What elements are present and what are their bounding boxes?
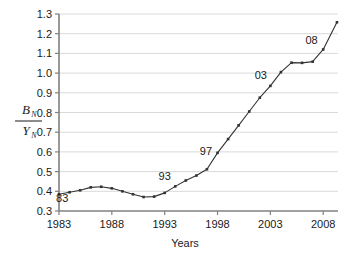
data-point-marker xyxy=(185,179,188,182)
y-axis-title-denominator-subscript: N xyxy=(30,131,37,140)
x-tick-label: 1993 xyxy=(152,218,176,230)
data-point-marker xyxy=(142,196,145,199)
x-tick-label: 2008 xyxy=(311,218,335,230)
x-axis xyxy=(59,211,338,215)
data-annotation-08: 08 xyxy=(305,34,317,46)
y-tick-label: 0.3 xyxy=(37,205,52,217)
data-point-marker xyxy=(269,85,272,88)
data-point-marker xyxy=(311,60,314,63)
data-point-marker xyxy=(153,195,156,198)
data-point-marker xyxy=(68,191,71,194)
x-tick-label: 1983 xyxy=(47,218,71,230)
x-tick-label: 2003 xyxy=(258,218,282,230)
y-tick-label: 0.5 xyxy=(37,166,52,178)
data-point-marker xyxy=(174,185,177,188)
data-point-marker xyxy=(258,96,261,99)
line-chart: 0.30.40.50.60.70.80.91.01.11.21.3 198319… xyxy=(0,0,343,255)
data-series-line xyxy=(59,22,337,197)
x-axis-title: Years xyxy=(171,237,199,249)
series-polyline xyxy=(59,22,337,197)
data-point-marker xyxy=(216,152,219,155)
data-point-marker xyxy=(227,138,230,141)
data-annotation-93: 93 xyxy=(159,170,171,182)
data-point-marker xyxy=(301,62,304,65)
data-point-marker xyxy=(248,110,251,113)
y-tick-label: 1.0 xyxy=(37,67,52,79)
data-annotation-03: 03 xyxy=(255,69,267,81)
y-axis-title-denominator: Y xyxy=(22,123,31,138)
data-point-marker xyxy=(132,193,135,196)
y-tick-label: 1.3 xyxy=(37,8,52,20)
x-tick-label: 1988 xyxy=(100,218,124,230)
y-tick-label: 0.6 xyxy=(37,146,52,158)
y-tick-label: 0.9 xyxy=(37,87,52,99)
data-point-marker xyxy=(111,187,114,190)
y-tick-label: 1.1 xyxy=(37,47,52,59)
data-annotations: 8393970308 xyxy=(56,34,318,205)
data-annotation-83: 83 xyxy=(56,192,68,204)
y-tick-labels: 0.30.40.50.60.70.80.91.01.11.21.3 xyxy=(37,8,52,217)
x-tick-label: 1998 xyxy=(205,218,229,230)
y-axis xyxy=(55,14,59,211)
data-point-marker xyxy=(195,174,198,177)
y-tick-label: 1.2 xyxy=(37,28,52,40)
data-annotation-97: 97 xyxy=(200,145,212,157)
grid-lines xyxy=(59,14,338,191)
y-tick-label: 0.4 xyxy=(37,185,52,197)
data-point-marker xyxy=(280,71,283,74)
data-point-marker xyxy=(237,124,240,127)
data-point-marker xyxy=(206,168,209,171)
y-axis-title-numerator: B xyxy=(22,102,30,117)
data-point-marker xyxy=(290,61,293,64)
x-tick-labels: 198319881993199820032008 xyxy=(47,218,336,230)
chart-figure: 0.30.40.50.60.70.80.91.01.11.21.3 198319… xyxy=(0,0,343,255)
data-point-marker xyxy=(89,186,92,189)
y-tick-label: 0.7 xyxy=(37,126,52,138)
data-point-marker xyxy=(79,189,82,192)
data-point-marker xyxy=(163,192,166,195)
data-point-marker xyxy=(336,21,339,24)
y-tick-label: 0.8 xyxy=(37,107,52,119)
data-point-marker xyxy=(322,48,325,51)
data-point-marker xyxy=(121,190,124,193)
data-point-marker xyxy=(100,185,103,188)
y-axis-title-numerator-subscript: N xyxy=(30,110,37,119)
